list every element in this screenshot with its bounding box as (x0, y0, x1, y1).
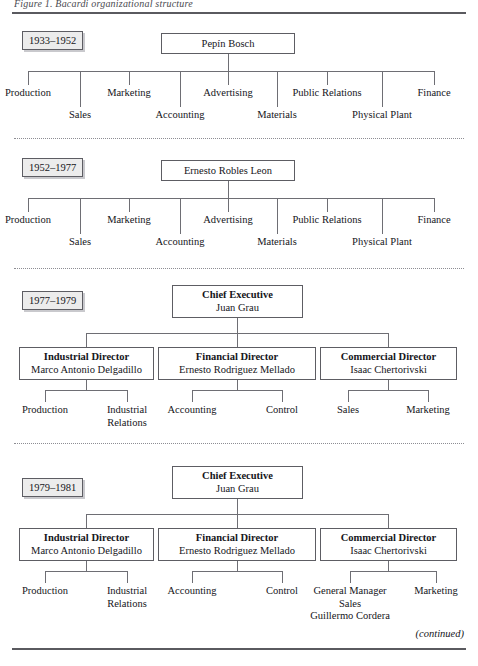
leaf-line-2: Sales (339, 598, 361, 609)
period-label-1979-1981: 1979–1981 (22, 478, 83, 497)
connector-bar-commercial (348, 390, 428, 391)
leaf-accounting: Accounting (168, 404, 217, 417)
node-name: Ernesto Rodriguez Mellado (159, 544, 315, 557)
connector-drop-advertising (228, 198, 229, 212)
leaf-general-manager-sales: General Manager Sales Guillermo Cordera (310, 585, 390, 623)
connector-bus (28, 71, 434, 72)
leaf-production: Production (22, 585, 68, 598)
connector-drop-finance (434, 198, 435, 212)
node-industrial-director: Industrial Director Marco Antonio Delgad… (19, 528, 154, 561)
node-title: Industrial Director (20, 531, 153, 544)
leaf-line-1: Industrial (107, 404, 147, 415)
root-node-name: Juan Grau (173, 482, 302, 495)
connector-drop-accounting (192, 571, 193, 583)
leaf-industrial-relations: Industrial Relations (107, 404, 147, 429)
page-rule-top (12, 12, 466, 14)
leaf-control: Control (266, 585, 298, 598)
node-name: Ernesto Rodriguez Mellado (159, 363, 315, 376)
leaf-production: Production (22, 404, 68, 417)
period-label-1977-1979: 1977–1979 (22, 291, 83, 310)
section-divider-3 (14, 443, 464, 444)
connector-stem-commercial (388, 380, 389, 390)
connector-stem-industrial (86, 561, 87, 571)
connector-drop-sales (80, 198, 81, 234)
leaf-sales: Sales (69, 236, 91, 249)
connector-drop-industrial-relations (127, 571, 128, 583)
connector-drop-industrial-director (86, 333, 87, 347)
leaf-industrial-relations: Industrial Relations (107, 585, 147, 610)
connector-drop-production (45, 390, 46, 402)
connector-drop-production (45, 571, 46, 583)
connector-root-stem (228, 181, 229, 198)
connector-drop-general-manager-sales (350, 571, 351, 583)
section-divider-1 (14, 138, 464, 139)
root-node-title: Chief Executive (173, 469, 302, 482)
node-commercial-director: Commercial Director Isaac Chertorivski (320, 347, 457, 380)
node-name: Marco Antonio Delgadillo (20, 544, 153, 557)
node-financial-director: Financial Director Ernesto Rodriguez Mel… (158, 528, 316, 561)
leaf-line-2: Relations (107, 417, 147, 428)
node-title: Industrial Director (20, 350, 153, 363)
connector-drop-public-relations (327, 71, 328, 85)
connector-drop-accounting (192, 390, 193, 402)
connector-bar-industrial (45, 390, 127, 391)
connector-drop-accounting (180, 71, 181, 107)
connector-stem-financial (237, 561, 238, 571)
connector-drop-finance (434, 71, 435, 85)
leaf-marketing: Marketing (406, 404, 450, 417)
root-node-name: Pepín Bosch (202, 37, 255, 51)
leaf-materials: Materials (257, 236, 297, 249)
connector-drop-marketing (129, 198, 130, 212)
leaf-advertising: Advertising (203, 214, 253, 227)
connector-root-stem (237, 318, 238, 333)
connector-drop-control (282, 390, 283, 402)
leaf-public-relations: Public Relations (292, 214, 361, 227)
page-rule-bottom (12, 648, 466, 650)
connector-drop-commercial-director (388, 333, 389, 347)
root-node-name: Ernesto Robles Leon (184, 164, 272, 178)
leaf-line-3: Guillermo Cordera (310, 610, 390, 621)
continued-label: (continued) (416, 628, 464, 639)
section-divider-2 (14, 268, 464, 269)
connector-drop-physical-plant (382, 198, 383, 234)
connector-drop-sales (348, 390, 349, 402)
leaf-line-2: Relations (107, 598, 147, 609)
root-node-title: Chief Executive (173, 288, 302, 301)
leaf-physical-plant: Physical Plant (352, 109, 412, 122)
node-name: Isaac Chertorivski (321, 544, 456, 557)
connector-drop-physical-plant (382, 71, 383, 107)
connector-drop-marketing (428, 390, 429, 402)
node-industrial-director: Industrial Director Marco Antonio Delgad… (19, 347, 154, 380)
node-name: Isaac Chertorivski (321, 363, 456, 376)
connector-stem-commercial (388, 561, 389, 571)
connector-bar-financial (192, 390, 282, 391)
node-name: Marco Antonio Delgadillo (20, 363, 153, 376)
leaf-accounting: Accounting (156, 109, 205, 122)
leaf-marketing: Marketing (107, 87, 151, 100)
leaf-sales: Sales (337, 404, 359, 417)
period-label-1952-1977: 1952–1977 (22, 158, 83, 177)
leaf-line-1: Industrial (107, 585, 147, 596)
node-title: Financial Director (159, 350, 315, 363)
root-node-name: Juan Grau (173, 301, 302, 314)
connector-bar-industrial (45, 571, 127, 572)
leaf-control: Control (266, 404, 298, 417)
connector-drop-materials (277, 198, 278, 234)
connector-drop-industrial-relations (127, 390, 128, 402)
root-node-pepin-bosch: Pepín Bosch (161, 33, 295, 54)
node-title: Financial Director (159, 531, 315, 544)
connector-drop-production (28, 198, 29, 212)
connector-drop-financial-director (237, 514, 238, 528)
connector-drop-industrial-director (86, 514, 87, 528)
connector-drop-materials (277, 71, 278, 107)
connector-drop-public-relations (327, 198, 328, 212)
node-commercial-director: Commercial Director Isaac Chertorivski (320, 528, 457, 561)
leaf-production: Production (5, 87, 51, 100)
figure-caption-partial: Figure 1. Bacardi organizational structu… (14, 0, 314, 9)
connector-stem-financial (237, 380, 238, 390)
root-node-chief-executive: Chief Executive Juan Grau (172, 285, 303, 318)
connector-bar-financial (192, 571, 282, 572)
leaf-materials: Materials (257, 109, 297, 122)
connector-root-stem (228, 54, 229, 71)
connector-drop-control (282, 571, 283, 583)
